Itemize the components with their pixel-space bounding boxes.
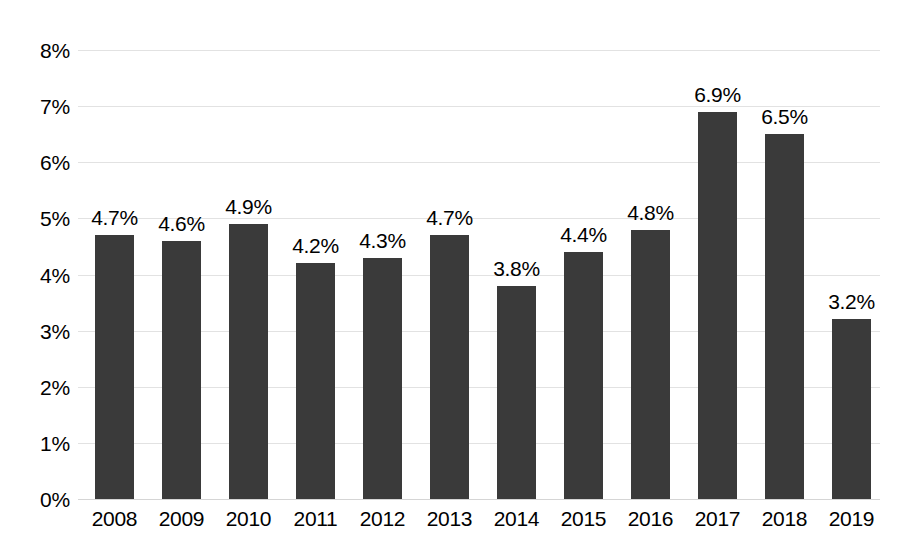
gridline: [78, 499, 880, 500]
bar-value-label: 4.8%: [606, 202, 696, 223]
y-axis-tick-label: 0%: [12, 489, 70, 510]
y-axis-tick-label: 6%: [12, 152, 70, 173]
bar[interactable]: [497, 286, 536, 499]
x-axis-tick-label: 2019: [807, 508, 897, 529]
bar[interactable]: [564, 252, 603, 499]
y-axis-tick-label: 3%: [12, 321, 70, 342]
y-axis-tick-label: 2%: [12, 377, 70, 398]
y-axis-tick-label: 1%: [12, 433, 70, 454]
y-axis-tick-label: 7%: [12, 96, 70, 117]
y-axis-tick-label: 8%: [12, 40, 70, 61]
bar[interactable]: [296, 263, 335, 499]
bar[interactable]: [765, 134, 804, 499]
bar-value-label: 3.2%: [807, 291, 897, 312]
y-axis-tick-label: 4%: [12, 265, 70, 286]
bar-value-label: 6.5%: [740, 106, 830, 127]
bar-value-label: 4.7%: [405, 207, 495, 228]
y-axis: 8%7%6%5%4%3%2%1%0%: [0, 50, 70, 499]
bar-value-label: 3.8%: [472, 258, 562, 279]
bar-chart: 8%7%6%5%4%3%2%1%0% 200820092010201120122…: [0, 0, 907, 548]
bar[interactable]: [229, 224, 268, 499]
bar-value-label: 4.4%: [539, 224, 629, 245]
y-axis-tick-label: 5%: [12, 208, 70, 229]
bar[interactable]: [631, 230, 670, 499]
bar-value-label: 4.9%: [204, 196, 294, 217]
bar[interactable]: [363, 258, 402, 499]
bar[interactable]: [430, 235, 469, 499]
bar[interactable]: [95, 235, 134, 499]
bar-value-label: 6.9%: [673, 84, 763, 105]
bar[interactable]: [162, 241, 201, 499]
bar[interactable]: [832, 319, 871, 499]
bar-value-label: 4.3%: [338, 230, 428, 251]
bar[interactable]: [698, 112, 737, 499]
